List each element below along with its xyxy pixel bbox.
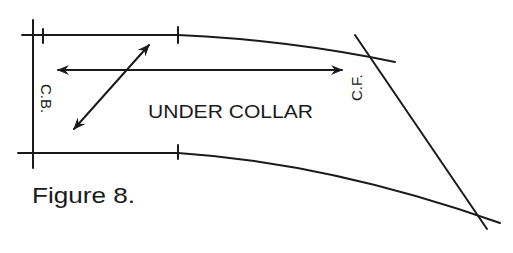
under-collar-diagram: C.B. C.F. UNDER COLLAR Figure 8. bbox=[0, 0, 513, 253]
diagram-title: UNDER COLLAR bbox=[148, 101, 313, 122]
bias-grain-arrow bbox=[74, 45, 149, 129]
center-front-label: C.F. bbox=[348, 74, 365, 101]
figure-caption: Figure 8. bbox=[32, 183, 135, 208]
center-back-label: C.B. bbox=[38, 84, 55, 113]
center-front-line bbox=[355, 35, 487, 229]
upper-edge bbox=[22, 35, 395, 62]
